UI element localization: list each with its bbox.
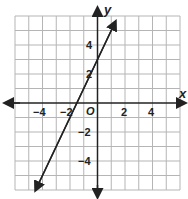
x-tick-label: 4: [148, 106, 155, 118]
x-tick-label: 2: [121, 106, 127, 118]
x-tick-label: −4: [33, 106, 46, 118]
y-axis-label: y: [103, 2, 112, 17]
y-tick-label: −2: [78, 126, 91, 138]
y-tick-label: −4: [78, 155, 91, 167]
x-tick-label: −2: [60, 106, 73, 118]
y-tick-label: 4: [86, 39, 93, 51]
origin-label: O: [86, 105, 95, 117]
coordinate-plane: y x O −4 −2 2 4 4 2 −2 −4: [0, 0, 188, 199]
y-tick-label: 2: [86, 68, 92, 80]
x-axis-label: x: [178, 86, 187, 101]
